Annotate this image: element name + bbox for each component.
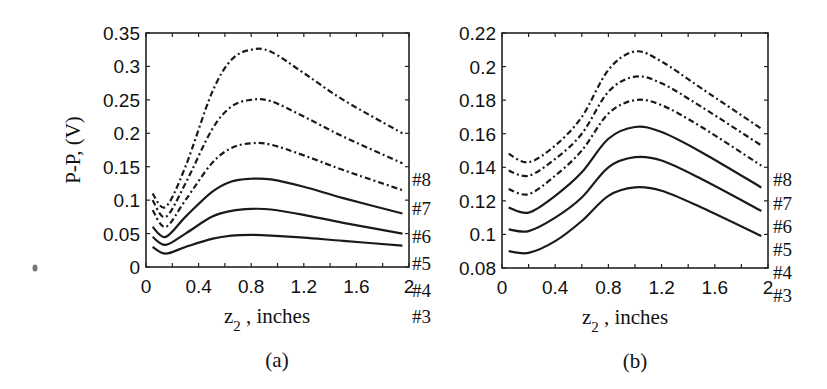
x-tick-label: 0.8 <box>238 276 264 297</box>
y-tick-label: 0 <box>129 257 140 278</box>
y-tick-label: 0.12 <box>459 191 496 212</box>
x-tick-label: 0.4 <box>185 276 212 297</box>
series-label: #3 <box>412 306 431 327</box>
series-line-4 <box>153 209 403 245</box>
x-tick-label: 1.6 <box>702 277 728 298</box>
chart-panel-b: 00.40.81.21.620.080.10.120.140.160.180.2… <box>459 23 792 373</box>
x-tick-label: 0.8 <box>595 277 621 298</box>
x-tick-label: 1.2 <box>648 277 674 298</box>
y-tick-label: 0.1 <box>114 190 140 211</box>
series-label: #4 <box>412 280 432 301</box>
series-line-6 <box>509 100 762 195</box>
y-tick-label: 0.05 <box>103 224 140 245</box>
y-tick-label: 0.15 <box>103 157 140 178</box>
x-axis-label: z2 , inches <box>224 304 310 334</box>
x-axis-label: z2 , inches <box>582 305 668 335</box>
series-label: #8 <box>412 169 431 190</box>
x-tick-label: 0.4 <box>542 277 569 298</box>
y-tick-label: 0.25 <box>103 90 140 111</box>
chart-panel-a: 00.40.81.21.6200.050.10.150.20.250.30.35… <box>61 23 432 372</box>
series-line-3 <box>509 187 762 253</box>
y-tick-label: 0.14 <box>459 157 496 178</box>
y-tick-label: 0.08 <box>459 258 496 279</box>
plot-frame <box>146 33 409 267</box>
y-tick-label: 0.3 <box>114 56 140 77</box>
series-line-7 <box>153 99 403 217</box>
series-label: #5 <box>773 239 792 260</box>
x-tick-label: 0 <box>141 276 152 297</box>
y-tick-label: 0.1 <box>470 224 496 245</box>
series-label: #3 <box>773 285 792 306</box>
panel-caption: (a) <box>265 348 288 372</box>
y-tick-label: 0.18 <box>459 90 496 111</box>
y-tick-label: 0.2 <box>470 57 496 78</box>
series-line-5 <box>509 127 762 213</box>
y-tick-label: 0.35 <box>103 23 140 44</box>
series-label: #5 <box>412 253 431 274</box>
series-line-3 <box>153 235 403 254</box>
x-tick-label: 1.2 <box>291 276 317 297</box>
series-line-6 <box>153 143 403 227</box>
x-tick-label: 0 <box>497 277 508 298</box>
x-tick-label: 1.6 <box>343 276 369 297</box>
y-axis-label: P-P, (V) <box>61 116 85 184</box>
stray-mark <box>33 265 38 272</box>
panel-caption: (b) <box>623 349 648 373</box>
series-line-8 <box>509 51 762 162</box>
plot-frame <box>502 33 768 268</box>
series-line-5 <box>153 178 403 237</box>
series-line-8 <box>153 49 403 208</box>
series-label: #7 <box>773 193 792 214</box>
figure: 00.40.81.21.6200.050.10.150.20.250.30.35… <box>0 0 827 389</box>
y-tick-label: 0.22 <box>459 23 496 44</box>
series-line-4 <box>509 157 762 232</box>
series-label: #8 <box>773 169 792 190</box>
series-label: #4 <box>773 262 793 283</box>
x-tick-label: 2 <box>763 277 774 298</box>
y-tick-label: 0.16 <box>459 124 496 145</box>
y-tick-label: 0.2 <box>114 123 140 144</box>
series-label: #6 <box>412 226 431 247</box>
series-label: #7 <box>412 198 431 219</box>
series-label: #6 <box>773 216 792 237</box>
